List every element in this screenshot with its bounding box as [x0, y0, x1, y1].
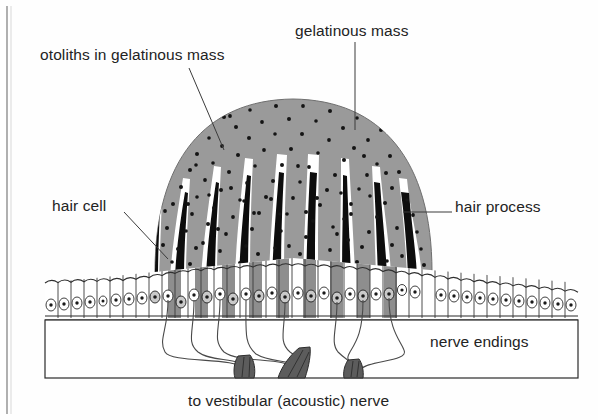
label-hair-cell: hair cell [52, 197, 106, 215]
nerve-ending-bundle [344, 359, 364, 378]
figure-caption: to vestibular (acoustic) nerve [188, 392, 389, 410]
label-nerve-endings: nerve endings [430, 333, 529, 351]
nerve-ending-bundle [234, 355, 255, 378]
gelatinous-mass-dome [146, 91, 432, 277]
label-gelatinous-mass: gelatinous mass [295, 22, 409, 40]
sensory-epithelium [45, 257, 578, 318]
label-hair-process: hair process [455, 198, 541, 216]
vestibular-macula-diagram: otoliths in gelatinous mass gelatinous m… [0, 0, 598, 420]
label-otoliths: otoliths in gelatinous mass [40, 46, 225, 64]
page-edge-line [7, 6, 11, 414]
